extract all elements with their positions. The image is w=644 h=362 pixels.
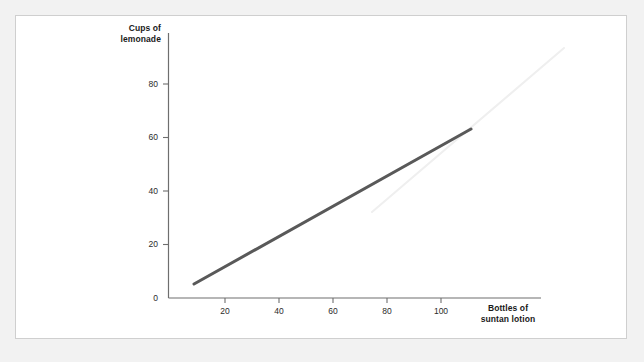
x-tick-label-100: 100 (426, 307, 456, 316)
y-tick-label-60: 60 (128, 133, 158, 142)
scatterplot-canvas (16, 16, 628, 340)
x-tick-label-80: 80 (372, 307, 402, 316)
y-tick-label-0: 0 (128, 294, 158, 303)
y-axis-title-line-2: lemonade (76, 34, 161, 45)
chart-container: Cups of lemonade Bottles of suntan lotio… (16, 16, 628, 340)
y-axis-title: Cups of lemonade (76, 23, 161, 45)
y-axis-title-line-1: Cups of (76, 23, 161, 34)
x-tick-label-40: 40 (264, 307, 294, 316)
x-tick-label-20: 20 (210, 307, 240, 316)
document-panel: Cups of lemonade Bottles of suntan lotio… (15, 15, 627, 339)
screenshot-root: Cups of lemonade Bottles of suntan lotio… (0, 0, 644, 362)
x-axis-title: Bottles of suntan lotion (453, 303, 563, 325)
x-axis-title-line-2: suntan lotion (453, 314, 563, 325)
x-tick-label-60: 60 (318, 307, 348, 316)
trend-line (194, 129, 471, 284)
y-tick-label-80: 80 (128, 80, 158, 89)
x-axis-title-line-1: Bottles of (453, 303, 563, 314)
y-tick-label-40: 40 (128, 187, 158, 196)
y-tick-label-20: 20 (128, 240, 158, 249)
